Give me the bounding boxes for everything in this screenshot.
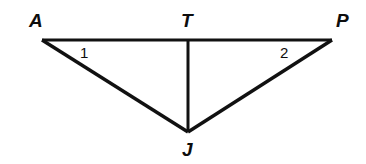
vertex-label-p: P	[336, 11, 349, 30]
angle-label-1: 1	[80, 45, 88, 60]
segment-AJ	[42, 40, 188, 132]
vertex-label-j: J	[182, 140, 193, 159]
angle-label-2: 2	[280, 45, 288, 60]
geometry-diagram-canvas: A T P J 1 2	[0, 0, 366, 164]
vertex-label-a: A	[29, 11, 43, 30]
vertex-label-t: T	[181, 11, 193, 30]
segment-PJ	[188, 40, 332, 132]
